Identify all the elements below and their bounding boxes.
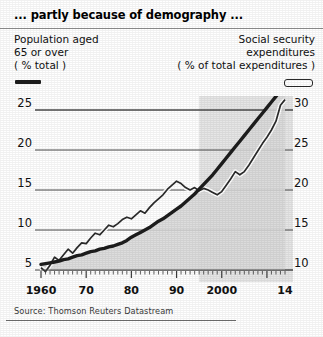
x-axis-tick-label: 90 <box>157 284 197 297</box>
y-axis-left-tick-label: 5 <box>4 256 32 270</box>
chart-legend: Population aged 65 or over ( % total ) S… <box>0 30 323 96</box>
legend-entry-social-security: Social security expenditures ( % of tota… <box>143 33 315 72</box>
y-axis-right-tick-label: 10 <box>294 256 322 270</box>
legend-swatch-population <box>15 80 41 84</box>
chart-title: ... partly because of demography ... <box>14 8 243 22</box>
y-axis-left-tick-label: 15 <box>4 176 32 190</box>
legend-population-line-2: 65 or over <box>14 46 164 59</box>
x-axis-tick-label: 80 <box>111 284 151 297</box>
x-axis-tick-label: 14 <box>265 284 305 297</box>
chart-source: Source: Thomson Reuters Datastream <box>14 306 173 316</box>
legend-entry-population: Population aged 65 or over ( % total ) <box>14 33 164 72</box>
y-axis-right-tick-label: 25 <box>294 136 322 150</box>
chart-figure: ... partly because of demography ... Pop… <box>0 0 323 337</box>
source-divider <box>6 320 236 321</box>
title-divider <box>0 28 323 29</box>
chart-plot-area <box>0 96 323 282</box>
y-axis-left-tick-label: 20 <box>4 136 32 150</box>
legend-population-line-3: ( % total ) <box>14 59 164 72</box>
legend-socsec-line-3: ( % of total expenditures ) <box>143 59 315 72</box>
legend-socsec-line-1: Social security <box>143 33 315 46</box>
legend-population-line-1: Population aged <box>14 33 164 46</box>
y-axis-right-tick-label: 20 <box>294 176 322 190</box>
legend-socsec-line-2: expenditures <box>143 46 315 59</box>
y-axis-left-tick-label: 25 <box>4 96 32 110</box>
x-axis-tick-label: 70 <box>66 284 106 297</box>
legend-swatch-social-security <box>284 79 313 87</box>
x-axis-tick-label: 2000 <box>202 284 242 297</box>
y-axis-right-tick-label: 15 <box>294 216 322 230</box>
x-axis-tick-label: 1960 <box>21 284 61 297</box>
y-axis-left-tick-label: 10 <box>4 216 32 230</box>
y-axis-right-tick-label: 30 <box>294 96 322 110</box>
